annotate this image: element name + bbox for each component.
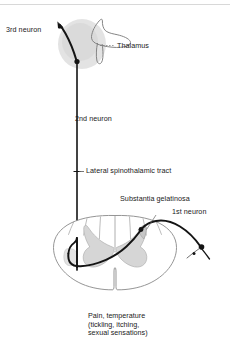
thalamus-shadow-blob-inner bbox=[62, 23, 98, 61]
receptor-terminal-dot bbox=[193, 252, 196, 255]
anatomy-illustration bbox=[0, 0, 230, 352]
label-third-neuron: 3rd neuron bbox=[6, 26, 41, 34]
label-thalamus: Thalamus bbox=[117, 42, 149, 50]
label-second-neuron: 2nd neuron bbox=[75, 115, 112, 123]
label-first-neuron: 1st neuron bbox=[172, 208, 206, 216]
spinothalamic-tract-figure: 3rd neuron Thalamus 2nd neuron Lateral s… bbox=[0, 0, 230, 352]
figure-caption: Pain, temperature (tickling, itching, se… bbox=[88, 312, 148, 338]
caption-line-3: sexual sensations) bbox=[88, 329, 148, 338]
label-substantia-gelatinosa: Substantia gelatinosa bbox=[120, 195, 190, 203]
label-lateral-spinothalamic-tract: Lateral spinothalamic tract bbox=[86, 167, 171, 175]
central-canal bbox=[114, 249, 116, 251]
receptor-branch-upper bbox=[201, 248, 210, 259]
